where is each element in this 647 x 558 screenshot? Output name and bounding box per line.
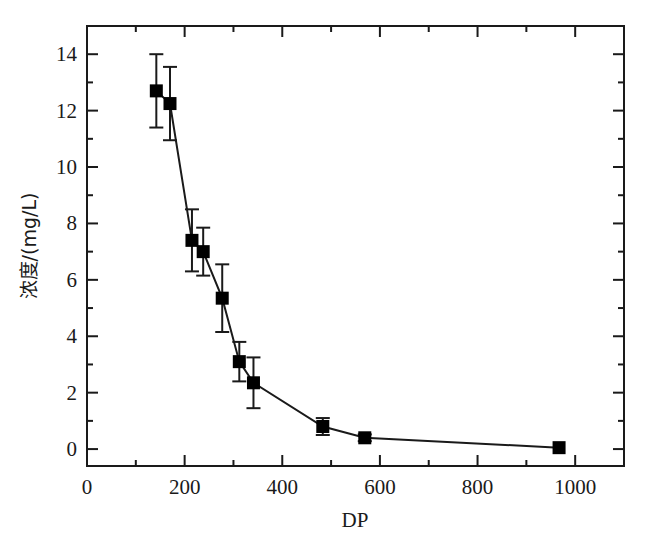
x-tick-label: 600 <box>364 475 396 499</box>
y-axis-title: 浓度/(mg/L) <box>18 193 40 300</box>
data-point-marker <box>197 245 210 258</box>
y-tick-label: 14 <box>56 42 78 66</box>
data-point-marker <box>150 84 163 97</box>
x-tick-label: 200 <box>169 475 201 499</box>
data-point-marker <box>233 355 246 368</box>
plot-canvas: 02004006008001000 02468101214 DP 浓度/(mg/… <box>0 0 647 558</box>
data-point-marker <box>553 441 566 454</box>
y-tick-label: 0 <box>67 437 78 461</box>
data-point-marker <box>185 234 198 247</box>
data-point-marker <box>358 431 371 444</box>
y-tick-label: 6 <box>67 268 78 292</box>
y-tick-label: 2 <box>67 381 78 405</box>
x-tick-label: 800 <box>462 475 494 499</box>
x-tick-label: 0 <box>82 475 93 499</box>
data-point-marker <box>316 420 329 433</box>
x-tick-label: 400 <box>267 475 299 499</box>
y-tick-label: 12 <box>56 99 77 123</box>
data-point-marker <box>163 97 176 110</box>
chart-figure: 02004006008001000 02468101214 DP 浓度/(mg/… <box>0 0 647 558</box>
y-tick-label: 10 <box>56 155 77 179</box>
x-axis-title: DP <box>342 508 369 532</box>
y-tick-label: 8 <box>67 211 78 235</box>
data-point-marker <box>247 376 260 389</box>
x-tick-label: 1000 <box>554 475 596 499</box>
data-point-marker <box>216 292 229 305</box>
y-tick-label: 4 <box>67 324 78 348</box>
